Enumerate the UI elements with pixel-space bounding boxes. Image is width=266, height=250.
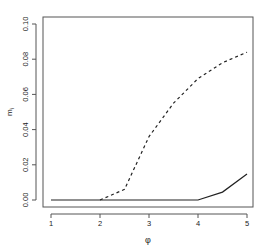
x-tick-label: 4 [196, 219, 200, 228]
series-group [51, 52, 247, 200]
x-tick-label: 2 [98, 219, 102, 228]
y-axis-label: mi [5, 108, 15, 116]
x-tick-label: 1 [49, 219, 53, 228]
series-line-dashed [100, 52, 247, 200]
chart: 0.000.020.040.060.080.10 12345 φ mi [0, 0, 266, 250]
series-line-solid [51, 174, 247, 200]
y-tick-label: 0.00 [21, 193, 30, 208]
y-tick-label: 0.06 [21, 87, 30, 102]
y-tick-label: 0.10 [21, 17, 30, 32]
y-axis: 0.000.020.040.060.080.10 [21, 17, 36, 208]
x-tick-label: 3 [147, 219, 151, 228]
x-axis: 12345 [49, 214, 249, 228]
x-axis-label: φ [145, 235, 151, 245]
x-tick-label: 5 [245, 219, 249, 228]
y-tick-label: 0.04 [21, 122, 30, 137]
y-tick-label: 0.08 [21, 52, 30, 67]
plot-frame [43, 17, 253, 207]
y-tick-label: 0.02 [21, 157, 30, 172]
